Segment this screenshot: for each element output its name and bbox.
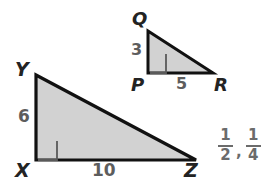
vertex-label-r: R — [214, 76, 228, 94]
measure-label-qp: 3 — [131, 42, 142, 58]
measure-label-xz: 10 — [92, 162, 116, 179]
triangle-pqr-body — [148, 31, 213, 73]
vertex-label-x: X — [15, 161, 30, 180]
triangle-pqr-shape — [148, 31, 213, 73]
measure-label-pr: 5 — [176, 76, 187, 92]
vertex-label-z: Z — [184, 161, 198, 180]
fraction-one-half: 1 2 — [218, 128, 233, 164]
measure-label-yx: 6 — [18, 108, 30, 125]
geometry-figure: Q P R 3 5 Y X Z 6 10 1 2 , 1 4 — [0, 0, 279, 187]
fraction-denominator: 2 — [218, 147, 232, 164]
fraction-denominator: 4 — [246, 147, 260, 164]
fraction-answers: 1 2 , 1 4 — [218, 128, 261, 164]
triangle-xyz-shape — [36, 75, 196, 160]
vertex-label-y: Y — [15, 60, 29, 79]
vertex-label-q: Q — [132, 10, 147, 28]
vertex-label-p: P — [131, 76, 144, 94]
triangle-xyz-body — [36, 75, 196, 160]
fraction-separator-comma: , — [236, 143, 242, 164]
fraction-numerator: 1 — [246, 128, 260, 145]
fraction-one-fourth: 1 4 — [246, 128, 261, 164]
fraction-numerator: 1 — [218, 128, 232, 145]
